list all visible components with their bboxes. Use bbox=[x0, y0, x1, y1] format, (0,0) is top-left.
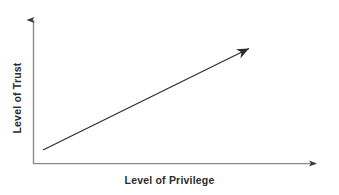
trust-privilege-trend-arrow bbox=[43, 49, 249, 151]
chart-plot-area bbox=[0, 0, 339, 195]
chart-figure: Level of Trust Level of Privilege bbox=[0, 0, 339, 195]
y-axis-label: Level of Trust bbox=[11, 62, 23, 133]
y-axis-label-container: Level of Trust bbox=[0, 0, 34, 195]
x-axis-label: Level of Privilege bbox=[0, 174, 339, 186]
